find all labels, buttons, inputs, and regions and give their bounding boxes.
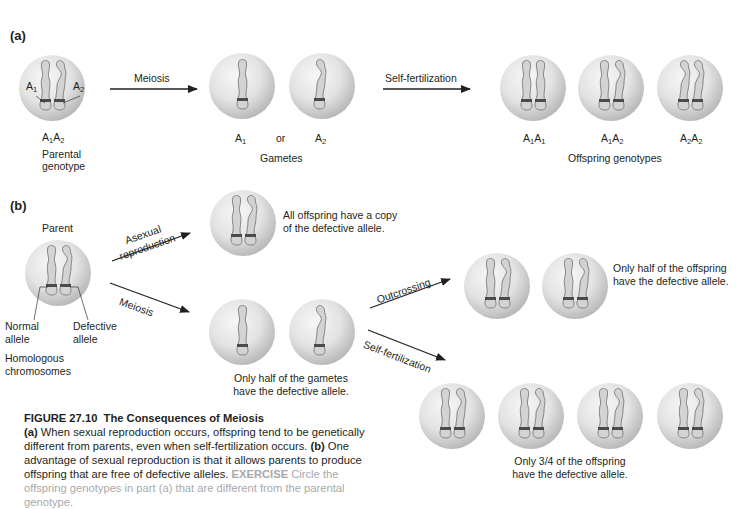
allele-label-a1: A1 [26,80,37,97]
gamete-cell-a1 [209,53,275,119]
defective-allele-label: Defective allele [73,320,117,345]
parent-label-b: Parent [42,222,73,235]
parent-cell-b [25,240,91,320]
parental-genotype-label: A1A2 Parental genotype [42,131,85,173]
self-fert-result-text: Only 3/4 of the offspring have the defec… [505,455,635,480]
offspring-label-a1a1: A1A1 [523,132,545,149]
gamete-cell-defective [289,299,355,365]
outcrossing-offspring-cell-1 [464,253,530,319]
gametes-caption: Gametes [260,152,303,165]
homologous-chromosomes-label: Homologous chromosomes [5,352,71,377]
gamete-label-a2: A2 [315,132,326,149]
gamete-cell-a2 [289,53,355,119]
gamete-or-label: or [276,132,285,145]
outcrossing-result-text: Only half of the offspring have the defe… [613,262,729,287]
self-fert-offspring-cell-4 [657,383,723,449]
self-fert-offspring-cell-1 [419,383,485,449]
offspring-genotypes-caption: Offspring genotypes [568,152,662,165]
offspring-cell-a1a1 [500,55,566,121]
gamete-label-a1: A1 [235,132,246,149]
panel-label-a: (a) [10,28,26,43]
offspring-cell-a2a2 [657,55,723,121]
offspring-label-a1a2: A1A2 [601,132,623,149]
offspring-cell-a1a2 [578,55,644,121]
asexual-result-text: All offspring have a copy of the defecti… [283,209,397,234]
figure-title: FIGURE 27.10 The Consequences of Meiosis [24,411,384,425]
normal-allele-label: Normal allele [5,320,39,345]
asexual-offspring-cell [210,190,276,256]
allele-label-a2: A2 [73,80,84,97]
offspring-label-a2a2: A2A2 [680,132,702,149]
self-fert-offspring-cell-2 [498,383,564,449]
meiosis-label-a: Meiosis [134,72,170,85]
outcrossing-offspring-cell-2 [542,253,608,319]
panel-label-b: (b) [10,198,27,213]
self-fert-offspring-cell-3 [577,383,643,449]
self-fertilization-label-a: Self-fertilization [385,72,457,85]
figure-caption-body: (a) When sexual reproduction occurs, off… [24,425,384,509]
gametes-result-text: Only half of the gametes have the defect… [226,372,356,397]
gamete-cell-normal [209,299,275,365]
figure-caption: FIGURE 27.10 The Consequences of Meiosis… [24,411,384,509]
